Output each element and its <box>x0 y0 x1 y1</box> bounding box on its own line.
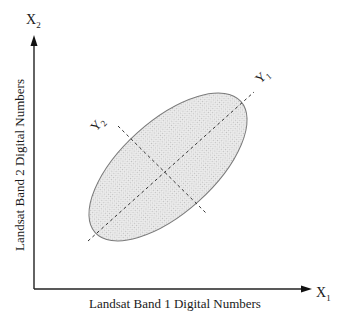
y-axis-title: Landsat Band 2 Digital Numbers <box>12 79 27 251</box>
x-axis-arrow-icon <box>301 286 312 293</box>
svg-text:Y1: Y1 <box>252 66 274 88</box>
svg-text:Y2: Y2 <box>87 114 109 136</box>
principal-axis-y2-label: Y2 <box>87 114 109 136</box>
data-ellipse <box>64 67 271 267</box>
x-axis-title: Landsat Band 1 Digital Numbers <box>89 296 261 311</box>
x-axis-symbol: X1 <box>316 285 331 303</box>
pca-diagram: Y1 Y2 X2 X1 Landsat Band 1 Digital Numbe… <box>0 0 342 317</box>
principal-axis-y1-label: Y1 <box>252 66 274 88</box>
y-axis-arrow-icon <box>31 35 38 46</box>
y-axis-symbol: X2 <box>26 12 41 30</box>
